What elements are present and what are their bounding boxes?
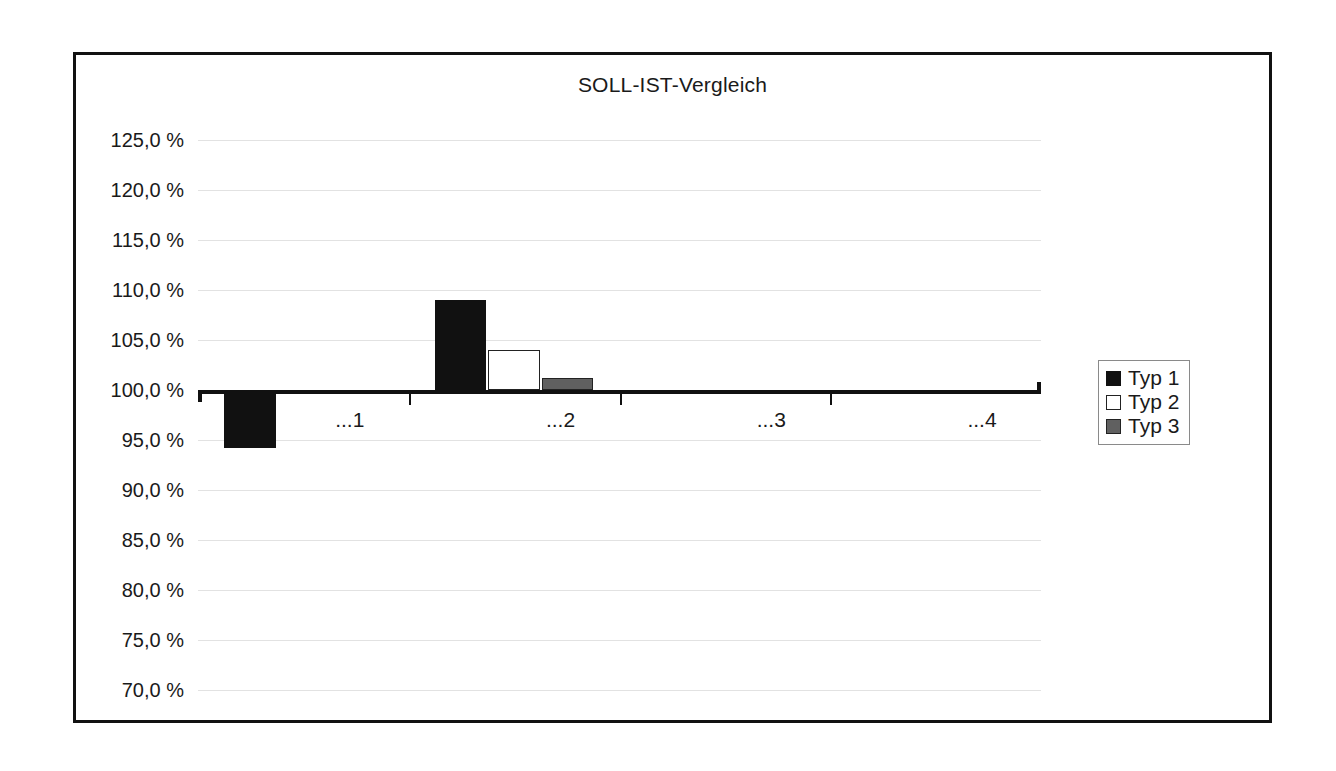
- legend-label: Typ 2: [1128, 390, 1179, 414]
- gridline: [198, 240, 1041, 241]
- chart-legend: Typ 1Typ 2Typ 3: [1098, 360, 1190, 445]
- y-axis-tick-label: 105,0 %: [111, 329, 184, 352]
- legend-swatch-icon: [1106, 371, 1121, 386]
- gridline: [198, 640, 1041, 641]
- y-axis-tick-label: 115,0 %: [112, 229, 184, 252]
- x-axis-tick: [620, 394, 622, 405]
- gridline: [198, 440, 1041, 441]
- gridline: [198, 590, 1041, 591]
- x-axis-tick-label: ...4: [967, 408, 996, 432]
- gridline: [198, 540, 1041, 541]
- legend-item: Typ 3: [1106, 414, 1179, 438]
- bar: [224, 390, 275, 448]
- x-axis-tick-label: ...3: [757, 408, 786, 432]
- x-axis-tick: [409, 394, 411, 405]
- chart-title: SOLL-IST-Vergleich: [76, 73, 1269, 97]
- legend-label: Typ 3: [1128, 414, 1179, 438]
- y-axis-tick-label: 120,0 %: [111, 179, 184, 202]
- axis-end-cap-left: [198, 390, 202, 402]
- gridline: [198, 140, 1041, 141]
- legend-item: Typ 1: [1106, 366, 1179, 390]
- bar: [542, 378, 593, 390]
- bar: [435, 300, 486, 390]
- legend-label: Typ 1: [1128, 366, 1179, 390]
- y-axis-tick-label: 75,0 %: [122, 629, 184, 652]
- y-axis-tick-label: 80,0 %: [122, 579, 184, 602]
- y-axis-tick-label: 90,0 %: [122, 479, 184, 502]
- bar: [488, 350, 539, 390]
- x-axis-tick: [830, 394, 832, 405]
- axis-end-cap-right: [1037, 382, 1041, 394]
- chart-frame: SOLL-IST-Vergleich 125,0 %120,0 %115,0 %…: [73, 52, 1272, 723]
- legend-swatch-icon: [1106, 419, 1121, 434]
- y-axis-tick-label: 110,0 %: [112, 279, 184, 302]
- gridline: [198, 490, 1041, 491]
- y-axis-tick-label: 125,0 %: [111, 129, 184, 152]
- gridline: [198, 290, 1041, 291]
- y-axis-tick-label: 95,0 %: [122, 429, 184, 452]
- gridline: [198, 340, 1041, 341]
- y-axis-tick-label: 85,0 %: [122, 529, 184, 552]
- x-axis-tick-label: ...2: [546, 408, 575, 432]
- legend-swatch-icon: [1106, 395, 1121, 410]
- gridline: [198, 190, 1041, 191]
- y-axis-tick-label: 100,0 %: [111, 379, 184, 402]
- plot-area: 125,0 %120,0 %115,0 %110,0 %105,0 %100,0…: [198, 140, 1041, 690]
- y-axis-tick-label: 70,0 %: [122, 679, 184, 702]
- gridline: [198, 690, 1041, 691]
- x-axis-tick-label: ...1: [335, 408, 364, 432]
- legend-item: Typ 2: [1106, 390, 1179, 414]
